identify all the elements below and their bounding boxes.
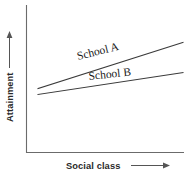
series-label-school-a-text: School A <box>76 40 121 62</box>
y-axis-title-group: Attainment <box>5 31 15 122</box>
y-axis-arrow-head-icon <box>7 31 13 38</box>
series-label-school-b: School B <box>88 66 132 82</box>
chart-plot-area: School A School B Social class Attainmen… <box>0 0 185 174</box>
series-label-school-b-text: School B <box>88 66 132 82</box>
x-axis-title: Social class <box>66 161 120 171</box>
x-axis-arrow-head-icon <box>163 163 170 169</box>
x-axis-title-group: Social class <box>66 161 170 171</box>
chart-figure: School A School B Social class Attainmen… <box>0 0 185 174</box>
series-label-school-a: School A <box>76 40 121 62</box>
y-axis-title: Attainment <box>5 72 15 122</box>
